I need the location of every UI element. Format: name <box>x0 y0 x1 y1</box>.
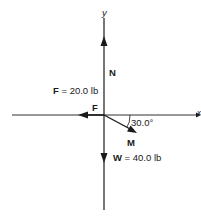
x-axis-label: x <box>197 109 201 117</box>
force-n-label: N <box>109 68 116 78</box>
force-m-label: M <box>127 138 135 148</box>
force-f-arrowhead <box>78 112 88 119</box>
force-w-value: = 40.0 lb <box>122 152 161 163</box>
force-n-arrowhead <box>101 36 108 46</box>
force-f-label: F <box>92 103 98 113</box>
force-f-value-label: F = 20.0 lb <box>53 86 98 96</box>
force-w-value-label: W = 40.0 lb <box>113 153 161 163</box>
force-w-symbol: W <box>113 152 122 163</box>
force-w-arrowhead <box>101 153 108 163</box>
angle-arc <box>127 115 130 127</box>
angle-label: 30.0° <box>131 118 153 128</box>
force-f-value: = 20.0 lb <box>59 85 98 96</box>
y-axis-label: y <box>102 8 107 18</box>
force-m-arrow <box>104 115 132 130</box>
free-body-diagram <box>0 0 201 216</box>
